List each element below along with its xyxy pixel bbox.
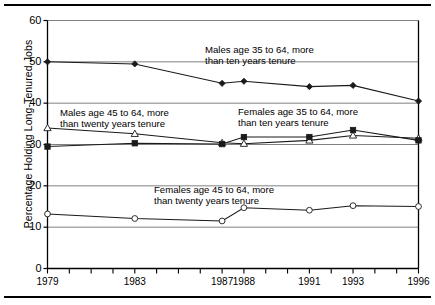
x-tick-label-1996: 1996	[399, 276, 435, 287]
y-tick-label-50: 50	[14, 55, 42, 67]
annotation-line-2: than ten years tenure	[205, 55, 314, 66]
data-point-2-2	[219, 141, 224, 146]
annotation-females-45-64: Females age 45 to 64, morethan twenty ye…	[154, 184, 274, 207]
data-point-2-0	[45, 144, 50, 149]
data-point-1-0	[44, 124, 51, 130]
data-point-0-4	[306, 84, 312, 90]
data-point-0-5	[350, 82, 356, 88]
data-point-3-2	[219, 218, 225, 224]
series-line-0	[48, 62, 419, 101]
data-point-3-5	[350, 203, 356, 209]
annotation-line-1: Males age 35 to 64, more	[205, 44, 314, 55]
data-point-2-4	[307, 134, 312, 139]
data-point-0-0	[44, 59, 50, 65]
y-tick-label-0: 0	[14, 262, 42, 274]
series-2	[45, 127, 421, 149]
y-tick-label-20: 20	[14, 179, 42, 191]
chart-figure: Percentage Holding Long-Tenured Jobs 010…	[0, 0, 435, 305]
series-line-3	[48, 206, 419, 221]
y-tick-label-30: 30	[14, 138, 42, 150]
annotation-males-35-64: Males age 35 to 64, morethan ten years t…	[205, 44, 314, 67]
annotation-line-2: than ten years tenure	[238, 117, 358, 128]
x-tick-label-1988: 1988	[224, 276, 264, 287]
data-point-2-6	[416, 138, 421, 143]
x-tick-label-1991: 1991	[289, 276, 329, 287]
annotation-line-1: Females age 45 to 64, more	[154, 184, 274, 195]
series-line-1	[48, 128, 419, 144]
annotation-males-45-64: Males age 45 to 64, morethan twenty year…	[60, 107, 169, 130]
data-point-0-3	[241, 78, 247, 84]
data-point-2-1	[132, 141, 137, 146]
data-point-3-6	[416, 204, 422, 210]
annotation-line-2: than twenty years tenure	[60, 118, 169, 129]
x-tick-label-1979: 1979	[28, 276, 68, 287]
data-point-2-3	[241, 134, 246, 139]
annotation-line-2: than twenty years tenure	[154, 195, 274, 206]
data-point-3-4	[306, 207, 312, 213]
x-tick-label-1983: 1983	[115, 276, 155, 287]
data-point-3-1	[132, 216, 138, 222]
data-point-0-2	[219, 80, 225, 86]
annotation-line-1: Females age 35 to 64, more	[238, 106, 358, 117]
y-tick-label-60: 60	[14, 14, 42, 26]
y-tick-label-40: 40	[14, 96, 42, 108]
x-tick-label-1993: 1993	[333, 276, 373, 287]
annotation-line-1: Males age 45 to 64, more	[60, 107, 169, 118]
data-point-3-0	[45, 211, 51, 217]
annotation-females-35-64: Females age 35 to 64, morethan ten years…	[238, 106, 358, 129]
y-tick-label-10: 10	[14, 220, 42, 232]
